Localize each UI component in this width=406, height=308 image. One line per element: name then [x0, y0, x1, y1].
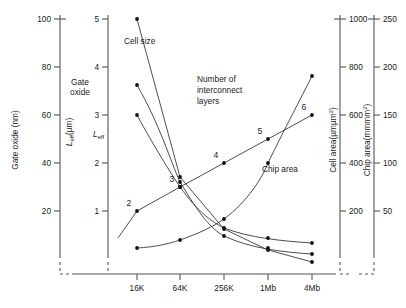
gate-oxide-tick-40: 40 — [42, 158, 52, 168]
data-point — [178, 185, 182, 189]
chip-area-axis: 250 200 150 100 50 Chip area(mmmm2) — [358, 14, 397, 274]
gate-oxide-tick-60: 60 — [42, 110, 52, 120]
x-tick-1mb: 1Mb — [260, 283, 277, 293]
cell-area-axis-title: Cell area(µmµm2) — [328, 107, 338, 173]
interconnect-label-line3: layers — [197, 96, 219, 106]
data-point — [178, 238, 182, 242]
data-point — [310, 241, 314, 245]
leff-axis: 5 4 3 2 1 Leff(µm) — [64, 14, 108, 274]
chip-area-label: Chip area — [262, 164, 298, 174]
gate-oxide-axis: 100 80 60 40 20 Gate oxide (nm) — [10, 14, 72, 274]
cell-area-tick-1000: 1000 — [349, 14, 368, 24]
leff-tick-5: 5 — [94, 14, 99, 24]
series-leff — [135, 113, 314, 245]
data-point — [222, 226, 226, 230]
interconnect-point-label-2: 2 — [127, 198, 132, 208]
data-point — [266, 246, 270, 250]
interconnect-label-line1: Number of — [197, 74, 236, 84]
leff-axis-title-unit: (µm) — [64, 118, 74, 135]
x-tick-256k: 256K — [214, 283, 234, 293]
chart-svg: 100 80 60 40 20 Gate oxide (nm) 5 4 3 2 … — [0, 0, 406, 308]
cell-area-tick-200: 200 — [349, 206, 363, 216]
leff-tick-3: 3 — [94, 110, 99, 120]
data-point — [310, 260, 314, 264]
data-point — [135, 17, 139, 21]
chip-area-tick-200: 200 — [383, 62, 397, 72]
x-tick-16k: 16K — [130, 283, 145, 293]
cell-area-tick-800: 800 — [349, 62, 363, 72]
chip-area-tick-250: 250 — [383, 14, 397, 24]
leff-axis-title: Leff(µm) — [64, 118, 75, 147]
leff-tick-4: 4 — [94, 62, 99, 72]
gate-oxide-tick-100: 100 — [37, 14, 51, 24]
chip-area-tick-150: 150 — [383, 110, 397, 120]
data-point — [266, 236, 270, 240]
data-point — [135, 113, 139, 117]
interconnect-point-label-5: 5 — [258, 126, 263, 136]
gate-oxide-label: Gate — [71, 77, 89, 87]
x-axis: 16K 64K 256K 1Mb 4Mb — [72, 274, 336, 293]
data-point — [266, 137, 270, 141]
leff-label: Leff — [93, 129, 105, 140]
data-point — [310, 113, 314, 117]
interconnect-point-label-6: 6 — [302, 102, 307, 112]
interconnect-label-line2: interconnect — [197, 85, 243, 95]
leff-tick-2: 2 — [94, 158, 99, 168]
interconnect-point-label-4: 4 — [214, 150, 219, 160]
gate-oxide-tick-80: 80 — [42, 62, 52, 72]
cell-area-axis-title-unit: (µm — [328, 125, 338, 140]
interconnect-point-label-3: 3 — [170, 174, 175, 184]
data-point — [178, 180, 182, 184]
data-point — [310, 74, 314, 78]
leff-tick-1: 1 — [94, 206, 99, 216]
data-point — [310, 252, 314, 256]
chip-area-axis-title-main: Chip area — [362, 140, 372, 176]
gate-oxide-tick-20: 20 — [42, 206, 52, 216]
chip-area-tick-100: 100 — [383, 158, 397, 168]
x-tick-64k: 64K — [173, 283, 188, 293]
chart-figure: 100 80 60 40 20 Gate oxide (nm) 5 4 3 2 … — [0, 0, 406, 308]
data-point — [222, 217, 226, 221]
x-tick-4mb: 4Mb — [304, 283, 321, 293]
gate-oxide-label-line2: oxide — [70, 87, 90, 97]
data-point — [222, 234, 226, 238]
gate-oxide-axis-title: Gate oxide (nm) — [10, 110, 20, 170]
chip-area-axis-title-unit: (mm — [362, 124, 372, 141]
data-point — [222, 161, 226, 165]
cell-area-axis-title-main: Cell area — [328, 139, 338, 173]
data-point — [135, 83, 139, 87]
chip-area-tick-50: 50 — [383, 206, 393, 216]
data-point — [135, 209, 139, 213]
data-point — [135, 246, 139, 250]
chip-area-axis-title: Chip area(mmmm2) — [362, 104, 372, 177]
cell-size-label: Cell size — [124, 36, 156, 46]
